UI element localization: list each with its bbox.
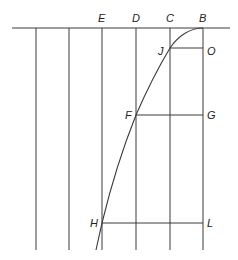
label-B: B <box>199 12 206 24</box>
label-F: F <box>125 109 133 121</box>
parabola-curve <box>96 28 203 250</box>
label-O: O <box>207 45 216 57</box>
label-D: D <box>132 12 140 24</box>
label-C: C <box>166 12 174 24</box>
label-L: L <box>207 217 213 229</box>
label-E: E <box>98 12 106 24</box>
parabola-diagram: E D C B J O F G H L <box>0 0 238 260</box>
label-J: J <box>157 45 164 57</box>
label-G: G <box>207 109 216 121</box>
label-H: H <box>90 217 98 229</box>
